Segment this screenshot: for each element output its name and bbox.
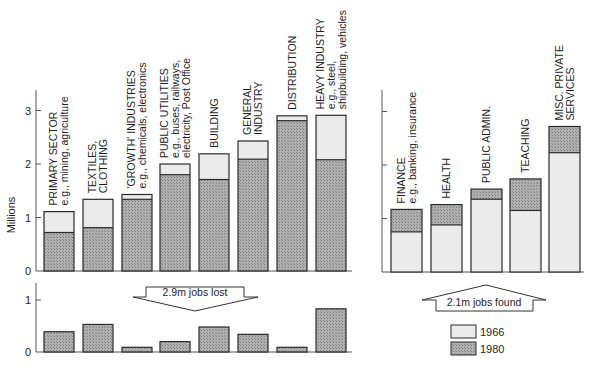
bar-base-segment [391,232,422,272]
bar-difference-segment [122,194,152,199]
bar-base-segment [122,199,152,271]
jobs-lost-bar [199,327,229,352]
category-label: PRIMARY SECTORe.g., mining, agriculture [47,96,70,205]
bar-base-segment [277,121,307,271]
bar-group [277,116,307,271]
bar-base-segment [510,210,541,272]
category-label: HEALTH [440,158,452,199]
bar-group [122,194,152,271]
sectors-losing-jobs-chart: 0123MillionsPRIMARY SECTORe.g., mining, … [5,10,352,277]
bar-difference-segment [431,205,462,225]
jobs-lost-arrow: 2.9m jobs lost [133,286,258,311]
category-label: BUILDING [208,98,220,148]
y-tick-label: 1 [25,212,31,224]
bar-base-segment [44,232,74,271]
bar-group [431,205,462,272]
bar-base-segment [471,199,502,272]
bar-group [83,199,113,271]
bar-difference-segment [471,189,502,199]
jobs-lost-label: 2.9m jobs lost [163,286,228,298]
bar-base-segment [549,153,580,272]
bar-group [238,141,268,271]
category-label: HEAVY INDUSTRYe.g., steel,shipbuilding, … [314,10,348,109]
legend-swatch-1966 [451,325,476,338]
bar-difference-segment [391,209,422,231]
jobs-lost-bar [83,324,113,352]
category-label: MISC. PRIVATESERVICES [553,45,576,120]
bar-group [316,115,346,271]
category-label: 'GROWTH' INDUSTRIESe.g., chemicals, elec… [125,62,148,188]
category-label: FINANCEe.g., banking, insurance [395,92,418,204]
legend-swatch-1980 [451,342,476,355]
legend-label-1966: 1966 [480,326,504,338]
category-label: GENERALINDUSTRY [241,82,264,135]
jobs-found-label: 2.1m jobs found [447,296,522,308]
jobs-lost-bar [122,347,152,352]
y-tick-label: 0 [25,265,31,277]
y-tick-label: 2 [25,158,31,170]
legend-label-1980: 1980 [480,343,504,355]
category-label: PUBLIC UTILITIESe.g., buses, railways,el… [158,58,192,158]
jobs-lost-bar [277,347,307,352]
bar-base-segment [431,225,462,272]
bar-difference-segment [238,141,268,159]
bar-base-segment [160,175,190,271]
bar-difference-segment [83,199,113,227]
bar-base-segment [83,228,113,271]
bar-difference-segment [316,115,346,159]
bar-base-segment [238,159,268,271]
category-label: TEXTILES,CLOTHING [86,139,109,193]
bar-group [199,154,229,271]
bar-difference-segment [44,212,74,233]
y-axis-label: Millions [5,196,17,233]
sectors-gaining-jobs-chart: FINANCEe.g., banking, insuranceHEALTHPUB… [382,45,584,272]
jobs-lost-bar [316,309,346,352]
jobs-lost-bar [160,342,190,352]
bar-difference-segment [160,164,190,175]
category-label: DISTRIBUTION [286,36,298,110]
y-tick-label: 0 [25,346,31,358]
y-tick-label: 1 [25,294,31,306]
employment-change-chart: 0123MillionsPRIMARY SECTORe.g., mining, … [0,0,595,372]
bar-group [510,179,541,272]
category-label: PUBLIC ADMIN. [480,106,492,183]
y-tick-label: 3 [25,105,31,117]
jobs-lost-bar [44,332,74,352]
bar-base-segment [199,180,229,271]
bar-difference-segment [510,179,541,211]
jobs-found-arrow: 2.1m jobs found [422,285,546,311]
bar-group [391,209,422,272]
bar-group [44,212,74,271]
bar-group [549,126,580,272]
jobs-lost-bar [238,334,268,352]
bar-group [160,164,190,271]
bar-group [471,189,502,272]
bar-difference-segment [199,154,229,180]
category-label: TEACHING [519,119,531,173]
bar-difference-segment [277,116,307,121]
bar-base-segment [316,160,346,271]
bar-difference-segment [549,126,580,152]
legend: 1966 1980 [451,325,504,355]
